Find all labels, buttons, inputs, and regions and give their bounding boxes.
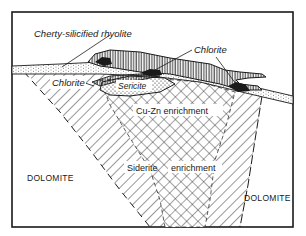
label-chlorite-top: Chlorite [194,44,227,55]
label-dolomite-left: DOLOMITE [27,173,74,183]
label-siderite: Siderite [127,163,158,173]
label-cu-zn: Cu-Zn enrichment [136,106,209,116]
label-chlorite-left: Chlorite [52,77,85,88]
cross-section-diagram: Cherty-silicified rhyolite Chlorite Chlo… [0,0,306,236]
label-cherty-rhyolite: Cherty-silicified rhyolite [34,28,132,39]
label-siderite-enrichment: enrichment [171,163,216,173]
label-dolomite-right: DOLOMITE [244,193,291,203]
label-sericite: Sericite [118,81,147,91]
